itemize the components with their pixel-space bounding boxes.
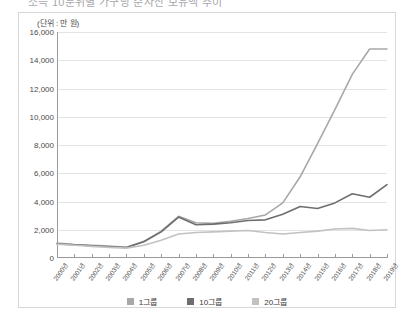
x-axis-tick-label: 2017년 (346, 260, 366, 283)
page-title: 소득 10분위별 가구당 순자산 보유액 추이 (28, 0, 222, 9)
series-line-1그룹 (57, 49, 387, 247)
series-line-10그룹 (57, 185, 387, 248)
x-axis-tick-label: 2011년 (242, 260, 262, 282)
x-axis-tick-label: 2001년 (68, 260, 88, 283)
x-axis-tick-label: 2004년 (120, 260, 140, 283)
series-lines (57, 32, 387, 258)
legend-item-1그룹[interactable]: 1그룹 (127, 296, 157, 307)
series-line-20그룹 (57, 228, 387, 248)
x-axis-tick-label: 2018년 (363, 260, 383, 283)
x-axis-tick-label: 2016년 (328, 260, 348, 283)
legend-item-20그룹[interactable]: 20그룹 (252, 296, 287, 307)
x-axis-tick-label: 2015년 (311, 260, 331, 283)
legend-item-10그룹[interactable]: 10그룹 (187, 296, 222, 307)
chart-legend: 1그룹10그룹20그룹 (0, 296, 414, 307)
legend-label: 10그룹 (199, 296, 222, 307)
x-axis-tick-label: 2009년 (207, 260, 227, 283)
x-axis-tick-label: 2007년 (172, 260, 192, 283)
y-axis-tick-label: 12,000 (30, 84, 54, 93)
x-axis-tick-label: 2003년 (102, 260, 122, 283)
x-axis-tick-label: 2008년 (189, 260, 209, 283)
y-axis-tick-label: 0 (50, 254, 54, 263)
x-axis-tick-label: 2013년 (276, 260, 296, 283)
chart-page: 소득 10분위별 가구당 순자산 보유액 추이 (단위 : 만 원) 16,00… (0, 0, 414, 322)
x-axis-labels: 2000년2001년2002년2003년2004년2005년2006년2007년… (57, 260, 387, 294)
y-axis-tick-label: 14,000 (30, 56, 54, 65)
legend-label: 1그룹 (139, 296, 157, 307)
x-axis-tick (387, 254, 388, 258)
y-axis-tick-label: 8,000 (34, 141, 54, 150)
x-axis-tick-label: 2012년 (259, 260, 279, 283)
x-axis-tick-label: 2006년 (154, 260, 174, 283)
x-axis-tick-label: 2014년 (293, 260, 313, 283)
x-axis-tick-label: 2019년 (380, 260, 400, 283)
plot-area (57, 32, 387, 258)
y-axis-tick-label: 16,000 (30, 28, 54, 37)
y-axis-tick-label: 6,000 (34, 169, 54, 178)
legend-swatch-icon (127, 298, 134, 305)
legend-swatch-icon (252, 298, 259, 305)
y-axis-tick-label: 2,000 (34, 225, 54, 234)
legend-label: 20그룹 (264, 296, 287, 307)
cut-off-title-strip: 소득 10분위별 가구당 순자산 보유액 추이 (0, 0, 414, 11)
x-axis-tick-label: 2010년 (224, 260, 244, 283)
x-axis-tick-label: 2002년 (85, 260, 105, 283)
x-axis-tick-label: 2005년 (137, 260, 157, 283)
unit-label: (단위 : 만 원) (37, 17, 79, 28)
y-axis-labels: 16,00014,00012,00010,0008,0006,0004,0002… (0, 32, 54, 258)
legend-swatch-icon (187, 298, 194, 305)
y-axis-tick-label: 4,000 (34, 197, 54, 206)
y-axis-tick-label: 10,000 (30, 112, 54, 121)
